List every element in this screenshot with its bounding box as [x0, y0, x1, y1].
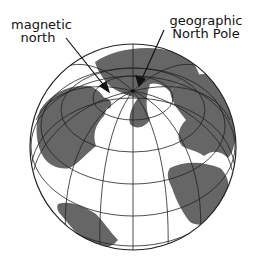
geographic-pole-dot — [131, 89, 135, 93]
globe-diagram — [0, 0, 259, 269]
globe — [30, 44, 236, 252]
